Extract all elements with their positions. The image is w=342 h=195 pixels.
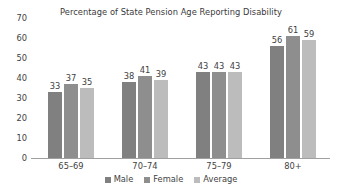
category-label: 70–74 bbox=[108, 161, 182, 175]
bar-value-label: 41 bbox=[140, 66, 151, 75]
bar[interactable] bbox=[212, 72, 226, 158]
bar-column: 39 bbox=[154, 18, 168, 158]
bar[interactable] bbox=[228, 72, 242, 158]
bar-column: 38 bbox=[122, 18, 136, 158]
bar-value-label: 61 bbox=[288, 26, 299, 35]
legend-swatch-icon bbox=[194, 177, 200, 183]
y-tick-label: 40 bbox=[16, 74, 27, 82]
bar-value-label: 59 bbox=[304, 30, 315, 39]
y-tick-label: 10 bbox=[16, 134, 27, 142]
y-tick-label: 70 bbox=[16, 14, 27, 22]
bar[interactable] bbox=[154, 80, 168, 158]
chart-legend: MaleFemaleAverage bbox=[0, 175, 342, 184]
y-tick-label: 30 bbox=[16, 94, 27, 102]
legend-item[interactable]: Female bbox=[144, 175, 183, 184]
legend-label: Male bbox=[114, 175, 134, 184]
bar-column: 41 bbox=[138, 18, 152, 158]
bar[interactable] bbox=[48, 92, 62, 158]
bar[interactable] bbox=[270, 46, 284, 158]
bar[interactable] bbox=[122, 82, 136, 158]
y-tick-label: 60 bbox=[16, 34, 27, 42]
bar-value-label: 56 bbox=[272, 36, 283, 45]
bar-value-label: 35 bbox=[82, 78, 93, 87]
bar-group: 333735 bbox=[34, 18, 108, 158]
bar-group: 434343 bbox=[182, 18, 256, 158]
legend-label: Female bbox=[153, 175, 183, 184]
bar-column: 35 bbox=[80, 18, 94, 158]
y-axis: 706050403020100 bbox=[0, 18, 34, 163]
category-labels: 65–6970–7475–7980+ bbox=[34, 161, 330, 175]
category-label: 80+ bbox=[256, 161, 330, 175]
bar-value-label: 43 bbox=[230, 62, 241, 71]
bar-column: 43 bbox=[228, 18, 242, 158]
legend-label: Average bbox=[203, 175, 237, 184]
bar[interactable] bbox=[302, 40, 316, 158]
bar-column: 43 bbox=[196, 18, 210, 158]
y-tick-label: 20 bbox=[16, 114, 27, 122]
bar-value-label: 43 bbox=[214, 62, 225, 71]
bar-value-label: 39 bbox=[156, 70, 167, 79]
category-label: 75–79 bbox=[182, 161, 256, 175]
category-label: 65–69 bbox=[34, 161, 108, 175]
y-tick-label: 0 bbox=[22, 154, 27, 162]
legend-swatch-icon bbox=[105, 177, 111, 183]
bar-chart: Percentage of State Pension Age Reportin… bbox=[0, 0, 342, 195]
bar[interactable] bbox=[80, 88, 94, 158]
y-tick-label: 50 bbox=[16, 54, 27, 62]
bar-column: 43 bbox=[212, 18, 226, 158]
chart-title: Percentage of State Pension Age Reportin… bbox=[0, 7, 342, 17]
legend-item[interactable]: Male bbox=[105, 175, 134, 184]
bar-column: 37 bbox=[64, 18, 78, 158]
bar-value-label: 38 bbox=[124, 72, 135, 81]
bar-value-label: 37 bbox=[66, 74, 77, 83]
bar-value-label: 43 bbox=[198, 62, 209, 71]
bar-column: 56 bbox=[270, 18, 284, 158]
bar-group: 566159 bbox=[256, 18, 330, 158]
bar-column: 61 bbox=[286, 18, 300, 158]
bar[interactable] bbox=[286, 36, 300, 158]
bar-value-label: 33 bbox=[50, 82, 61, 91]
bar-column: 33 bbox=[48, 18, 62, 158]
x-axis-baseline bbox=[31, 158, 330, 159]
legend-swatch-icon bbox=[144, 177, 150, 183]
bar-groups: 333735384139434343566159 bbox=[34, 18, 330, 158]
legend-item[interactable]: Average bbox=[194, 175, 237, 184]
bar-group: 384139 bbox=[108, 18, 182, 158]
bar-column: 59 bbox=[302, 18, 316, 158]
bar[interactable] bbox=[64, 84, 78, 158]
bar[interactable] bbox=[196, 72, 210, 158]
bar[interactable] bbox=[138, 76, 152, 158]
